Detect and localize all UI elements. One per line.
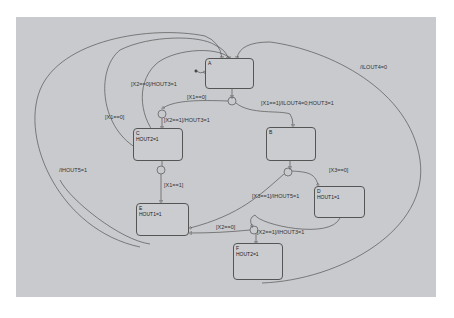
transition-label: /ILOUT4=0 [360,64,387,70]
state-e[interactable]: E HOUT1=1 [136,203,189,236]
transition-label: [X3==0] [329,167,348,173]
transition-label: [X1==1] [164,182,183,188]
transition-label: [X2==0] [216,224,235,230]
state-action: HOUT1=1 [317,194,362,200]
transition-label: [X1==1]/ILOUT4=0;HOUT3=1 [261,100,334,106]
state-c[interactable]: C HOUT2=1 [133,128,183,161]
state-action: HOUT1=1 [139,211,186,217]
transition-label: [X1==0] [105,114,124,120]
state-name: A [208,60,251,66]
transition-label: [X3==1]/IHOUT5=1 [252,193,299,199]
transition-label: [X2==1]/HOUT3=1 [164,117,210,123]
state-a[interactable]: A [205,58,254,89]
state-f[interactable]: F HOUT2=1 [233,243,283,280]
transition-label: [X2==1]/IHOUT3=1 [257,229,304,235]
transition-label: [X1==0] [187,94,206,100]
state-d[interactable]: D HOUT1=1 [314,186,365,218]
state-b[interactable]: B [266,127,316,161]
transition-label: [X2==0]/HOUT3=1 [131,81,177,87]
state-action: HOUT2=1 [236,251,280,257]
state-name: B [269,129,313,135]
transition-label: /IHOUT5=1 [59,167,87,173]
state-action: HOUT2=1 [136,136,180,142]
transition-lines [0,0,454,318]
